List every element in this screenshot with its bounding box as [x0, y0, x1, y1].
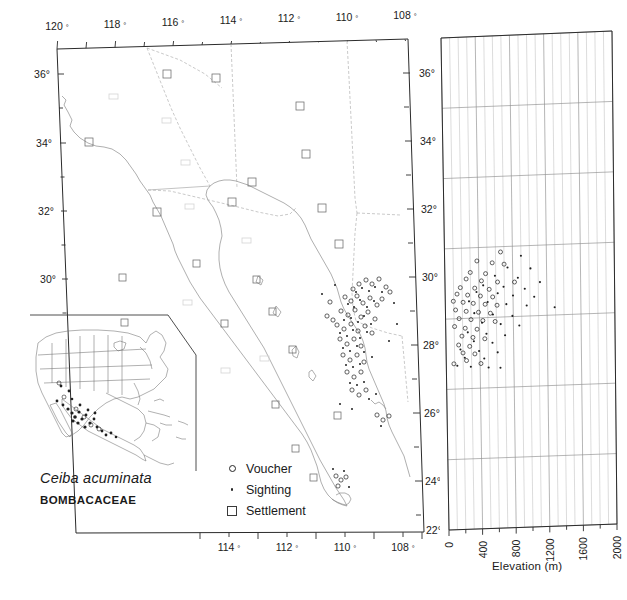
legend-item-sighting: Sighting [222, 479, 306, 500]
elev-tick-1200: 1200 [544, 538, 556, 562]
legend-item-voucher: Voucher [222, 458, 306, 479]
settlement-icon [222, 506, 242, 516]
elev-tick-400: 400 [477, 541, 489, 559]
map-legend: Voucher Sighting Settlement [222, 458, 306, 521]
bottom-axis-ticks [200, 532, 422, 539]
occurrence-sightings [321, 284, 398, 488]
inset-geography [36, 330, 188, 465]
right-axis-ticks [403, 73, 422, 515]
scatter-x-ticklabels: 0400800120016002000 [443, 536, 623, 562]
elevation-scatter-panel: 0400800120016002000 [427, 8, 627, 568]
family-name: BOMBACACEAE [40, 494, 136, 506]
elev-tick-800: 800 [510, 539, 522, 557]
legend-label-settlement: Settlement [246, 504, 306, 518]
legend-item-settlement: Settlement [222, 500, 306, 521]
occurrence-vouchers [325, 277, 392, 488]
elev-tick-0: 0 [443, 542, 455, 548]
elev-tick-2000: 2000 [611, 536, 623, 560]
scatter-points-sighting [456, 255, 555, 369]
species-name: Ceiba acuminata [40, 470, 152, 486]
voucher-icon [222, 465, 242, 472]
legend-label-sighting: Sighting [246, 483, 291, 497]
elevation-axis-label: Elevation (m) [492, 560, 562, 572]
figure-root: 120 ° 118 ° 116 ° 114 ° 112 ° 110 ° 108 … [0, 0, 627, 600]
north-america-inset [28, 313, 228, 473]
sighting-icon [222, 488, 242, 491]
legend-label-voucher: Voucher [246, 462, 292, 476]
elev-tick-1600: 1600 [577, 537, 589, 561]
